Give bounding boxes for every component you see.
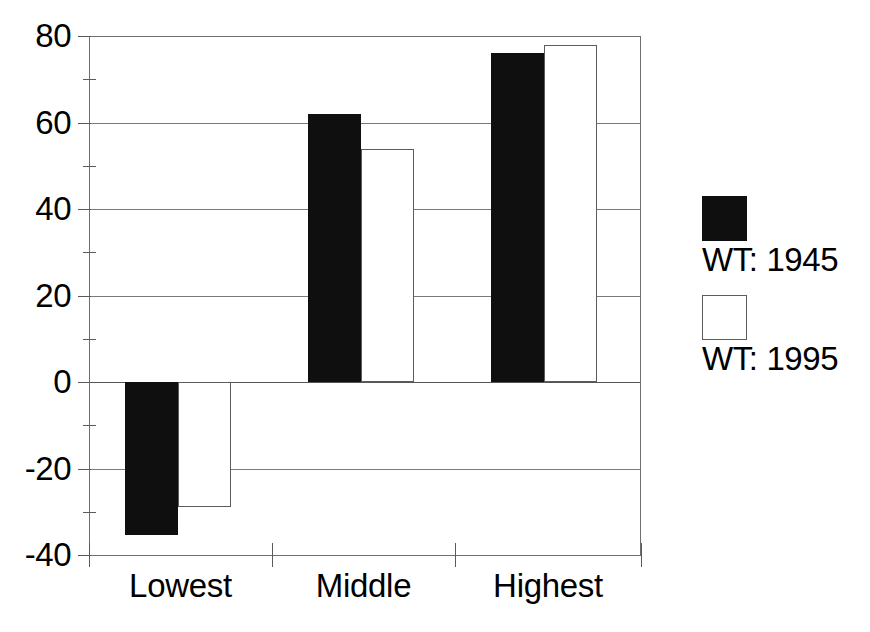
y-tick-20 (78, 296, 91, 297)
y-tick-40 (78, 209, 91, 210)
y-tick-label-40: 40 (0, 192, 71, 225)
y-tick-80 (78, 36, 91, 37)
y-minor-tick-50 (83, 166, 96, 167)
bar-lowest-wt1945 (125, 382, 178, 535)
y-minor-tick-minus30 (83, 512, 96, 513)
bar-highest-wt1995 (544, 45, 597, 382)
x-tick-right (641, 543, 642, 567)
y-minor-tick-minus10 (83, 425, 96, 426)
gridline-minus40 (89, 555, 641, 556)
y-tick-label-80: 80 (0, 19, 71, 52)
y-minor-tick-10 (83, 339, 96, 340)
bar-middle-wt1995 (361, 149, 414, 382)
y-tick-label-minus40: -40 (0, 538, 71, 571)
bar-highest-wt1945 (491, 53, 544, 382)
y-tick-minus20 (78, 469, 91, 470)
x-axis-label-middle: Middle (272, 568, 455, 604)
y-tick-label-0: 0 (0, 365, 71, 398)
x-axis-label-lowest: Lowest (89, 568, 272, 604)
x-axis-label-highest: Highest (455, 568, 641, 604)
y-tick-60 (78, 123, 91, 124)
y-tick-label-minus20: -20 (0, 452, 71, 485)
bar-chart: 80 60 40 20 0 -20 -40 Lowest Middle High… (0, 0, 870, 632)
y-tick-0 (78, 382, 91, 383)
y-tick-label-20: 20 (0, 279, 71, 312)
legend-label-wt1995: WT: 1995 (702, 341, 838, 377)
legend-label-wt1945: WT: 1945 (702, 242, 838, 278)
bar-middle-wt1945 (308, 114, 361, 382)
x-tick-1 (272, 543, 273, 567)
legend-swatch-empty-square-icon (702, 295, 747, 340)
y-minor-tick-70 (83, 79, 96, 80)
x-tick-left (89, 543, 90, 567)
x-tick-2 (455, 543, 456, 567)
legend-swatch-filled-square-icon (702, 196, 747, 241)
bar-lowest-wt1995 (178, 382, 231, 507)
y-minor-tick-30 (83, 252, 96, 253)
y-tick-label-60: 60 (0, 106, 71, 139)
